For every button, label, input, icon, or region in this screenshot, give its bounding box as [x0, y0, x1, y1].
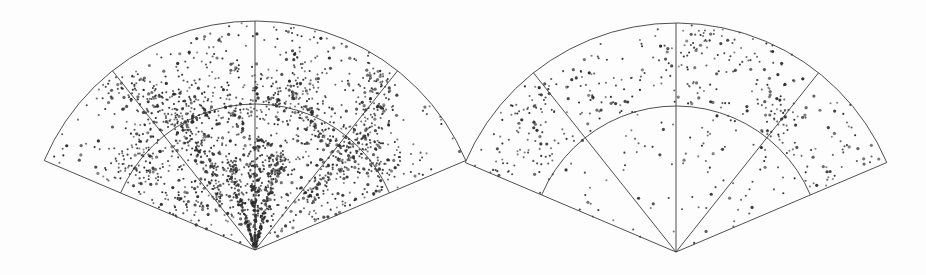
panel-right-comparison-sample-wedge[interactable]	[463, 0, 926, 275]
panel-left-observed-survey-wedge[interactable]	[0, 0, 463, 275]
figure-root: Galaxy redshift survey wedge diagrams	[0, 0, 926, 275]
